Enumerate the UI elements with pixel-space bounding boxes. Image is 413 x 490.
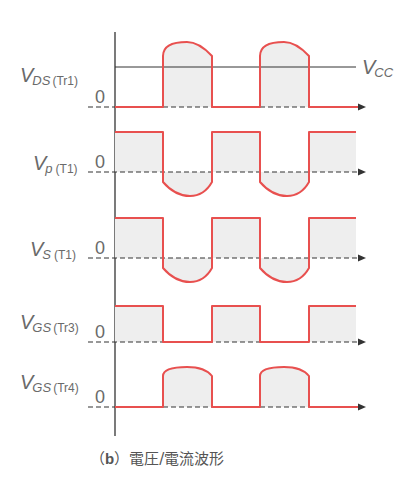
time-arrow-icon	[358, 169, 366, 176]
caption-text: 電圧/電流波形	[129, 450, 224, 468]
zero-label: 0	[95, 152, 105, 172]
trace-vp-t1: Vp(T1) 0	[33, 132, 366, 196]
label-vcc: VCC	[362, 56, 394, 80]
zero-label: 0	[95, 387, 105, 407]
caption-open-paren: （	[90, 450, 105, 468]
trace-vgs-tr3: VGS(Tr3) 0	[20, 306, 366, 346]
label-vgs-tr4: VGS(Tr4)	[20, 371, 79, 395]
zero-label: 0	[95, 87, 105, 107]
label-vs-t1: VS(T1)	[30, 238, 76, 262]
trace-vgs-tr4: VGS(Tr4) 0	[20, 367, 366, 411]
figure-caption: （b）電圧/電流波形	[90, 447, 224, 468]
zero-label: 0	[95, 322, 105, 342]
time-arrow-icon	[358, 404, 366, 411]
time-arrow-icon	[358, 104, 366, 111]
zero-label: 0	[95, 238, 105, 258]
caption-label: b	[105, 450, 114, 467]
trace-vs-t1: VS(T1) 0	[30, 218, 366, 282]
label-vds-tr1: VDS(Tr1)	[20, 64, 78, 88]
caption-close-paren: ）	[114, 450, 129, 468]
trace-vds-tr1: VDS(Tr1) 0 VCC	[20, 42, 394, 111]
time-arrow-icon	[358, 339, 366, 346]
label-vp-t1: Vp(T1)	[33, 152, 78, 176]
waveform-diagram: VDS(Tr1) 0 VCC Vp(T1) 0 VS(T1) 0	[0, 0, 413, 490]
label-vgs-tr3: VGS(Tr3)	[20, 311, 79, 335]
time-arrow-icon	[358, 255, 366, 262]
